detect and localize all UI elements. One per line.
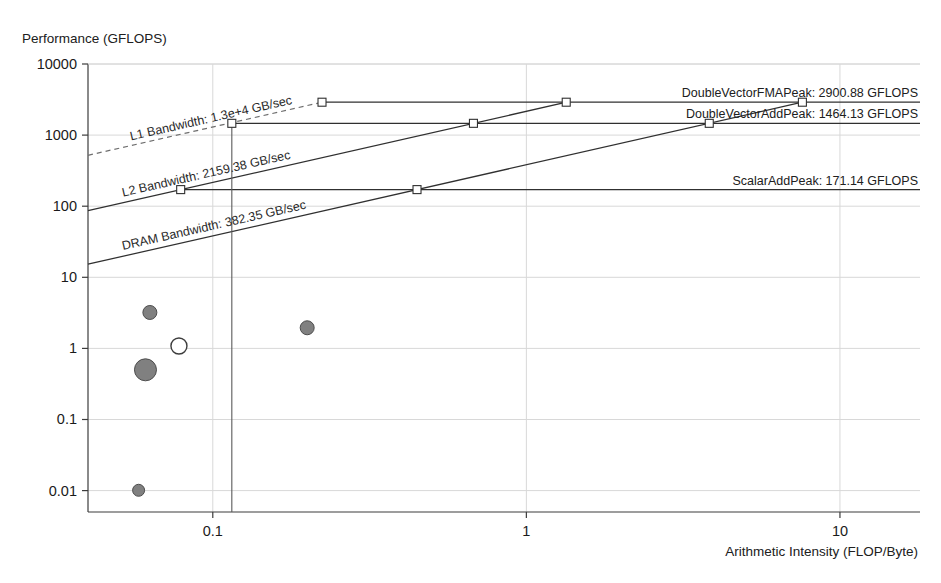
y-tick-label: 10000 [37, 56, 77, 72]
y-tick-label: 100 [53, 198, 77, 214]
roofline-chart: 1000010001001010.10.010.1110 Performance… [0, 0, 941, 583]
x-axis-title: Arithmetic Intensity (FLOP/Byte) [725, 544, 918, 559]
y-axis-title: Performance (GFLOPS) [22, 31, 167, 46]
y-tick-label: 1 [69, 340, 77, 356]
y-tick-label: 0.1 [57, 411, 77, 427]
ridge-marker [562, 98, 570, 106]
bandwidth-roofline-l2 [88, 102, 567, 211]
x-tick-label: 1 [522, 523, 530, 539]
gridlines-group [88, 64, 920, 512]
kernel-data-points [133, 305, 315, 496]
data-point-marker[interactable] [134, 359, 156, 381]
x-tick-label: 10 [832, 523, 848, 539]
bandwidth-label-l2: L2 Bandwidth: 2159.38 GB/sec [120, 148, 291, 200]
ridge-marker [413, 186, 421, 194]
bandwidth-label-l1: L1 Bandwidth: 1.3e+4 GB/sec [129, 93, 294, 143]
y-tick-label: 10 [61, 269, 77, 285]
ridge-marker [318, 98, 326, 106]
ceiling-label-doublevectoraddpeak: DoubleVectorAddPeak: 1464.13 GFLOPS [686, 107, 918, 121]
x-tick-label: 0.1 [203, 523, 223, 539]
ceiling-label-scalaraddpeak: ScalarAddPeak: 171.14 GFLOPS [732, 174, 918, 188]
ceiling-label-doublevectorfmapeak: DoubleVectorFMAPeak: 2900.88 GFLOPS [682, 86, 918, 100]
y-tick-label: 1000 [45, 127, 77, 143]
data-point-marker[interactable] [143, 305, 157, 319]
ridge-marker [469, 119, 477, 127]
data-point-marker[interactable] [171, 338, 187, 354]
data-point-marker[interactable] [133, 484, 145, 496]
chart-text-labels: Performance (GFLOPS)Arithmetic Intensity… [22, 31, 918, 559]
y-tick-label: 0.01 [49, 483, 77, 499]
data-point-marker[interactable] [300, 321, 314, 335]
roofline-plot-svg: 1000010001001010.10.010.1110 Performance… [0, 0, 941, 583]
